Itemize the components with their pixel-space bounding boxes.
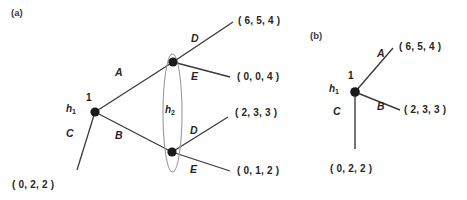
panel-a-action-label-A: A	[115, 67, 123, 78]
panel-b-tag: (b)	[310, 31, 322, 41]
edge-a-root-C	[77, 112, 95, 170]
infoset-h2-subscript: 2	[171, 109, 175, 116]
panel-a-payoff-BD: ( 2, 3, 3 )	[235, 108, 277, 118]
node-a-h2-lower	[167, 147, 176, 156]
panel-b-action-label-C: C	[333, 106, 341, 117]
node-b-root	[350, 87, 360, 97]
edge-b-root-A	[355, 48, 393, 92]
panel-b-edges	[355, 48, 400, 149]
panel-b-payoff-B: ( 2, 3, 3 )	[404, 105, 446, 115]
panel-a-action-label-E-upper: E	[191, 71, 198, 82]
panel-a-action-label-B: B	[115, 130, 123, 141]
panel-a-payoff-BE: ( 0, 1, 2 )	[237, 166, 279, 176]
panel-a-root-player-label: 1	[86, 93, 92, 103]
panel-b-root-player-label: 1	[348, 71, 354, 81]
panel-b-root-infoset-label: h1	[329, 84, 339, 94]
edge-a-root-B	[95, 112, 172, 152]
node-a-root	[90, 107, 99, 116]
panel-a-tag: (a)	[11, 8, 23, 18]
panel-a-edges	[77, 22, 233, 171]
panel-b-action-label-B: B	[377, 101, 385, 112]
edge-a-root-A	[95, 62, 173, 112]
panel-a-root-infoset-label: h1	[66, 104, 76, 114]
panel-a-action-label-C: C	[66, 128, 74, 139]
panel-a-payoff-AE: ( 0, 0, 4 )	[237, 72, 279, 82]
edge-a-upper-D	[173, 22, 233, 62]
node-a-h2-upper	[168, 57, 177, 66]
panel-b-action-label-A: A	[377, 48, 385, 59]
panel-b-payoff-A: ( 6, 5, 4 )	[399, 42, 441, 52]
edge-a-upper-E	[173, 62, 230, 77]
panel-a-action-label-D-lower: D	[190, 125, 198, 136]
edge-a-lower-E	[172, 152, 230, 171]
infoset-h-subscript-b: 1	[335, 88, 339, 95]
infoset-h-subscript: 1	[72, 108, 76, 115]
panel-a-action-label-D-upper: D	[191, 33, 199, 44]
panel-a-payoff-AD: ( 6, 5, 4 )	[238, 16, 280, 26]
panel-b-payoff-C: ( 0, 2, 2 )	[330, 164, 372, 174]
game-tree-canvas	[0, 0, 467, 200]
panel-a-action-label-E-lower: E	[190, 164, 197, 175]
panel-a-payoff-C: ( 0, 2, 2 )	[12, 180, 54, 190]
game-tree-figure: (a) h1 1 h2 A B C D E D E ( 6, 5, 4 ) ( …	[0, 0, 467, 200]
panel-a-infoset-h2-label: h2	[165, 105, 175, 115]
